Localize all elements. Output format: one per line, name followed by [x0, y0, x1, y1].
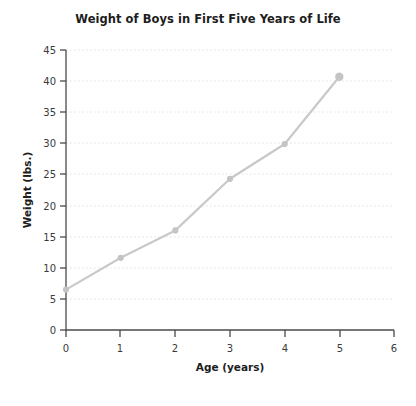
- x-tick-label: 1: [117, 343, 123, 354]
- x-tick-label: 4: [282, 343, 288, 354]
- line-chart-plot: 45 40 35 30 25 20 15 10 5 0 0 1 2 3 4 5 …: [0, 0, 416, 406]
- data-point: [282, 141, 288, 147]
- data-line: [66, 77, 339, 290]
- y-tick-label: 20: [43, 201, 56, 212]
- y-tick-label: 25: [43, 169, 56, 180]
- data-point: [335, 73, 343, 81]
- y-tick-label: 35: [43, 107, 56, 118]
- y-tick-label: 30: [43, 138, 56, 149]
- x-tick-labels: 0 1 2 3 4 5 6: [63, 343, 397, 354]
- y-tick-label: 5: [50, 294, 56, 305]
- y-axis-title: Weight (lbs.): [21, 152, 33, 229]
- y-tick-label: 40: [43, 76, 56, 87]
- y-tick-label: 45: [43, 45, 56, 56]
- data-point: [118, 255, 124, 261]
- x-tick-label: 0: [63, 343, 69, 354]
- x-axis-title: Age (years): [196, 361, 265, 373]
- data-markers: [63, 73, 344, 293]
- y-tick-label: 0: [50, 325, 56, 336]
- x-tick-label: 5: [337, 343, 343, 354]
- y-tick-label: 15: [43, 232, 56, 243]
- data-point: [172, 227, 178, 233]
- x-axis-ticks: [66, 330, 394, 337]
- x-tick-label: 6: [391, 343, 397, 354]
- data-point: [63, 287, 69, 293]
- axis-lines: [66, 50, 394, 330]
- data-point: [227, 176, 233, 182]
- chart-container: Weight of Boys in First Five Years of Li…: [0, 0, 416, 406]
- y-tick-label: 10: [43, 263, 56, 274]
- y-tick-labels: 45 40 35 30 25 20 15 10 5 0: [43, 45, 56, 336]
- x-tick-label: 2: [172, 343, 178, 354]
- x-tick-label: 3: [227, 343, 233, 354]
